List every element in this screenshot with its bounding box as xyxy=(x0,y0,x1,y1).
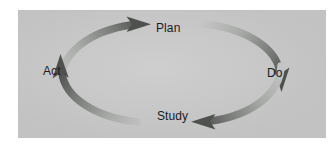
cycle-label-plan: Plan xyxy=(156,22,180,34)
pdsa-cycle-screenshot: Plan Do Study Act xyxy=(0,0,334,150)
cycle-label-study: Study xyxy=(157,110,188,122)
cycle-label-do: Do xyxy=(267,67,283,79)
arrow-act-to-plan xyxy=(61,17,151,81)
cycle-label-act: Act xyxy=(43,65,61,77)
